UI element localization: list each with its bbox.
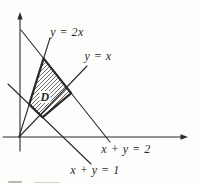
caption-remnant-mark <box>34 182 60 183</box>
caption-remnant-mark <box>8 181 22 183</box>
region-d-polygon <box>29 58 71 117</box>
y-axis-arrowhead-icon <box>17 12 22 20</box>
x-axis-arrowhead-icon <box>181 134 189 139</box>
label-y-equals-2x: y = 2x <box>50 26 84 38</box>
math-figure: y = 2x y = x x + y = 2 x + y = 1 D <box>0 0 199 186</box>
label-x-plus-y-equals-1: x + y = 1 <box>70 164 119 176</box>
label-x-plus-y-equals-2: x + y = 2 <box>101 143 150 155</box>
label-y-equals-x: y = x <box>84 50 111 62</box>
region-d-label: D <box>39 91 50 103</box>
region-diagram-canvas <box>0 0 199 186</box>
